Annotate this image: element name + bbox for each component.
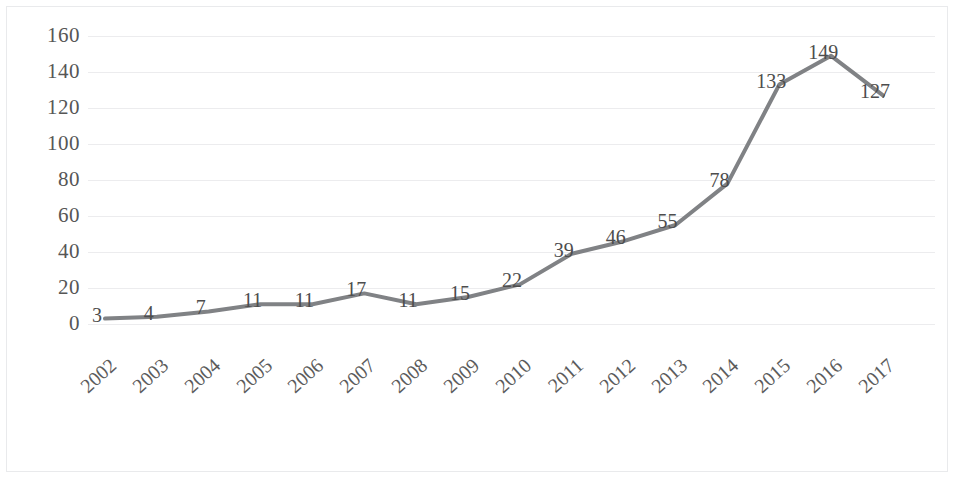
data-point-label: 78 [709, 170, 729, 190]
series-line [105, 56, 883, 319]
data-point-label: 15 [450, 283, 470, 303]
data-point-label: 7 [196, 297, 206, 317]
data-point-label: 17 [346, 279, 366, 299]
series-line-layer [0, 0, 955, 479]
data-point-label: 11 [399, 290, 418, 310]
data-point-label: 4 [144, 303, 154, 323]
data-point-label: 55 [658, 211, 678, 231]
data-point-label: 133 [756, 71, 786, 91]
data-point-label: 22 [502, 270, 522, 290]
data-point-label: 3 [92, 305, 102, 325]
data-point-label: 46 [606, 227, 626, 247]
data-point-label: 127 [860, 81, 890, 101]
data-point-label: 149 [808, 42, 838, 62]
data-point-label: 39 [554, 240, 574, 260]
chart-figure: 020406080100120140160 200220032004200520… [0, 0, 955, 479]
data-point-label: 11 [295, 290, 314, 310]
data-point-label: 11 [243, 290, 262, 310]
